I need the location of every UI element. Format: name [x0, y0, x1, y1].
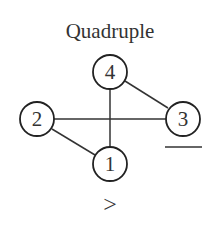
- node-1: 1: [93, 147, 127, 181]
- edge-4-3: [125, 81, 168, 108]
- node-3: 3: [165, 102, 202, 147]
- node-2-label: 2: [32, 107, 43, 131]
- diagram-title: Quadruple: [66, 19, 155, 43]
- node-4: 4: [93, 55, 127, 89]
- node-2: 2: [20, 102, 54, 136]
- node-3-label: 3: [178, 107, 189, 131]
- quadruple-diagram: Quadruple 4 2 3 1 >: [0, 0, 217, 230]
- comparison-symbol: >: [103, 191, 117, 217]
- edge-2-1: [52, 129, 95, 155]
- node-1-label: 1: [105, 152, 116, 176]
- node-4-label: 4: [105, 60, 116, 84]
